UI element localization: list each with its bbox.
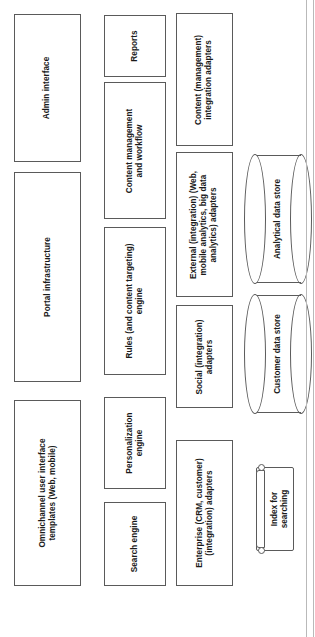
component-box-search-engine: Search engine [104, 502, 166, 586]
figure-canvas: Admin interface Portal infrastructure Om… [0, 0, 314, 637]
tape-nub-top-icon [258, 464, 265, 471]
figure-caption: Figure 5-10. CMS component architecture [310, 545, 314, 635]
component-label: Social (integration) adapters [195, 319, 215, 394]
component-box-personalization-engine: Personalization engine [104, 397, 166, 489]
component-label: Personalization engine [125, 412, 145, 473]
page-edge-rule-outer [313, 0, 314, 637]
data-store-index-for-searching: Index for searching [256, 467, 294, 551]
component-label: Enterprise (CRM, customer) (integration)… [195, 458, 215, 568]
component-box-rules-engine: Rules (and content targeting) engine [104, 227, 166, 375]
component-label: Portal infrastructure [43, 237, 53, 317]
component-box-enterprise-integration-adapters: Enterprise (CRM, customer) (integration)… [176, 440, 233, 586]
component-box-portal-infrastructure: Portal infrastructure [14, 172, 81, 382]
component-box-admin-interface: Admin interface [14, 14, 81, 162]
component-box-reports: Reports [104, 15, 166, 77]
component-label: Content management and workflow [125, 108, 145, 193]
tape-nub-bottom-icon [258, 547, 265, 554]
component-label: Reports [130, 30, 140, 61]
component-box-omnichannel-templates: Omnichannel user interface templates (We… [14, 400, 81, 586]
page-edge-rule-inner [306, 0, 307, 637]
data-store-label: Customer data store [219, 331, 314, 377]
data-store-label: Index for searching [238, 495, 315, 524]
component-label: Rules (and content targeting) engine [125, 243, 145, 358]
data-store-analytical-data-store: Analytical data store [255, 155, 301, 283]
data-store-label: Analytical data store [214, 196, 314, 242]
data-store-customer-data-store: Customer data store [255, 295, 301, 413]
component-label: Omnichannel user interface templates (We… [38, 438, 58, 547]
component-label: Content (management) integration adapter… [195, 34, 215, 124]
component-label: Admin interface [43, 57, 53, 120]
component-label: Search engine [130, 516, 140, 573]
component-box-content-management-workflow: Content management and workflow [104, 82, 166, 219]
component-box-content-integration-adapters: Content (management) integration adapter… [176, 13, 233, 146]
